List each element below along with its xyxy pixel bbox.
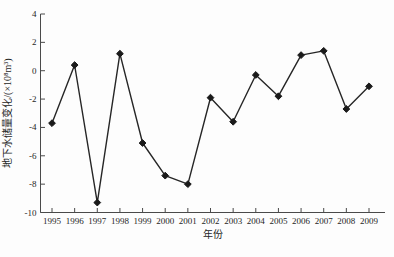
data-point-marker bbox=[184, 181, 191, 188]
y-axis-title: 地下水储量变化/(×10⁸m³) bbox=[1, 58, 14, 167]
x-tick-label: 2008 bbox=[337, 216, 356, 226]
x-tick-label: 1995 bbox=[43, 216, 62, 226]
x-tick-label: 1998 bbox=[111, 216, 130, 226]
x-tick-label: 2003 bbox=[224, 216, 243, 226]
data-point-marker bbox=[71, 62, 78, 69]
groundwater-storage-line-chart: 420-2-4-6-8-1019951996199719981999200020… bbox=[0, 0, 394, 257]
x-tick-label: 2009 bbox=[360, 216, 379, 226]
data-point-marker bbox=[298, 52, 305, 59]
x-tick-label: 1997 bbox=[88, 216, 107, 226]
data-series-line bbox=[52, 51, 369, 203]
y-tick-label: 2 bbox=[32, 37, 37, 47]
x-tick-label: 2002 bbox=[202, 216, 220, 226]
x-tick-label: 2005 bbox=[269, 216, 288, 226]
x-tick-label: 2006 bbox=[292, 216, 311, 226]
data-point-marker bbox=[117, 50, 124, 57]
x-tick-label: 2000 bbox=[156, 216, 175, 226]
y-tick-label: -10 bbox=[25, 208, 37, 218]
data-point-marker bbox=[320, 47, 327, 54]
y-tick-label: -8 bbox=[29, 179, 37, 189]
y-tick-label: -2 bbox=[29, 94, 37, 104]
x-axis-title: 年份 bbox=[203, 228, 223, 240]
x-tick-label: 1999 bbox=[134, 216, 153, 226]
x-tick-label: 2004 bbox=[247, 216, 266, 226]
y-tick-label: -6 bbox=[29, 151, 37, 161]
x-tick-label: 2001 bbox=[179, 216, 197, 226]
groundwater-storage-figure: 420-2-4-6-8-1019951996199719981999200020… bbox=[0, 0, 394, 257]
y-tick-label: -4 bbox=[29, 122, 37, 132]
x-tick-label: 1996 bbox=[66, 216, 85, 226]
y-tick-label: 4 bbox=[32, 9, 37, 19]
data-point-marker bbox=[94, 199, 101, 206]
y-tick-label: 0 bbox=[32, 66, 37, 76]
x-tick-label: 2007 bbox=[315, 216, 334, 226]
data-point-marker bbox=[49, 120, 56, 127]
